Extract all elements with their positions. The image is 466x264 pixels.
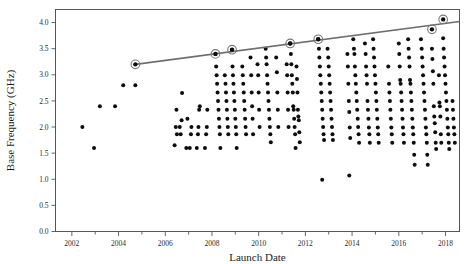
data-point (204, 132, 208, 136)
data-point (352, 47, 356, 51)
data-point (173, 143, 177, 147)
data-point (295, 91, 299, 95)
data-point (216, 99, 220, 103)
data-point (133, 83, 137, 87)
data-point (268, 132, 272, 136)
data-point (354, 82, 358, 86)
data-point (357, 132, 361, 136)
data-point (450, 99, 454, 103)
data-point (241, 73, 245, 77)
y-axis-tick-labels: 0.00.51.01.52.02.53.03.54.0 (39, 18, 49, 236)
data-point (286, 108, 290, 112)
data-point (422, 99, 426, 103)
data-point (224, 91, 228, 95)
data-point (290, 82, 294, 86)
data-point (320, 178, 324, 182)
data-point (322, 132, 326, 136)
data-point (121, 83, 125, 87)
data-point (241, 82, 245, 86)
data-point (243, 117, 247, 121)
data-point (389, 126, 393, 130)
data-point (330, 132, 334, 136)
data-point (356, 117, 360, 121)
data-point (451, 117, 455, 121)
data-point (408, 78, 412, 82)
data-point (397, 41, 401, 45)
data-point (318, 73, 322, 77)
data-point (256, 62, 260, 66)
data-point (92, 146, 96, 150)
data-point (423, 108, 427, 112)
data-point (289, 62, 293, 66)
y-axis-ticks (52, 23, 56, 232)
data-point (445, 117, 449, 121)
data-point (225, 117, 229, 121)
data-point (443, 64, 447, 68)
data-point (326, 47, 330, 51)
x-tick-label: 2002 (64, 239, 79, 248)
data-point (205, 125, 209, 129)
data-point (425, 141, 429, 145)
data-point (180, 118, 184, 122)
data-point (224, 82, 228, 86)
data-point (409, 91, 413, 95)
data-point (275, 91, 279, 95)
data-point (368, 141, 372, 145)
data-point (452, 132, 456, 136)
data-point (373, 82, 377, 86)
data-point (401, 117, 405, 121)
data-point (321, 125, 325, 129)
data-point (447, 141, 451, 145)
data-point (430, 57, 434, 61)
data-point (412, 153, 416, 157)
data-point (320, 99, 324, 103)
data-point (374, 99, 378, 103)
data-point (387, 82, 391, 86)
data-point (225, 108, 229, 112)
x-axis-ticks (72, 232, 446, 237)
x-tick-label: 2018 (438, 239, 453, 248)
data-point (178, 125, 182, 129)
data-point (293, 125, 297, 129)
data-point (357, 141, 361, 145)
data-point (347, 99, 351, 103)
data-point (398, 64, 402, 68)
data-point (251, 132, 255, 136)
data-point (444, 99, 448, 103)
data-point (184, 146, 188, 150)
data-point (365, 99, 369, 103)
data-point (423, 117, 427, 121)
data-point (298, 140, 302, 144)
data-point (443, 82, 447, 86)
data-point (224, 99, 228, 103)
data-point (364, 64, 368, 68)
data-point (375, 108, 379, 112)
data-point (442, 47, 446, 51)
data-point (80, 125, 84, 129)
x-tick-label: 2006 (158, 239, 173, 248)
data-point (355, 108, 359, 112)
data-point (174, 108, 178, 112)
data-point (402, 141, 406, 145)
data-point (447, 147, 451, 151)
y-tick-label: 3.0 (39, 70, 49, 79)
data-point (390, 141, 394, 145)
data-point (257, 91, 261, 95)
y-tick-label: 0.0 (39, 227, 49, 236)
plot-area: 0.00.51.01.52.02.53.03.54.0 200220042006… (0, 0, 466, 264)
data-point (256, 73, 260, 77)
y-tick-label: 0.5 (39, 201, 49, 210)
data-point (217, 117, 221, 121)
data-point (443, 73, 447, 77)
data-point (345, 52, 349, 56)
data-point (233, 108, 237, 112)
data-point (366, 117, 370, 121)
data-point (424, 132, 428, 136)
data-point (267, 108, 271, 112)
data-point (249, 73, 253, 77)
data-point (231, 64, 235, 68)
data-point (410, 108, 414, 112)
data-point (214, 64, 218, 68)
data-point (226, 125, 230, 129)
data-point (410, 117, 414, 121)
